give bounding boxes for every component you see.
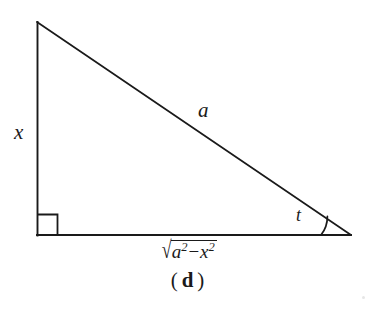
hypotenuse-line xyxy=(37,22,351,235)
figure-caption: (d) xyxy=(0,268,376,293)
radicand-group: a2−x2 xyxy=(171,240,217,261)
label-hypotenuse-a: a xyxy=(198,100,209,121)
angle-arc-marker xyxy=(321,216,327,235)
caption-close-paren: ) xyxy=(197,268,205,292)
radicand-second-exponent: 2 xyxy=(209,240,215,254)
scan-artifact-speck xyxy=(362,296,365,299)
label-vertical-leg-x: x xyxy=(14,122,23,143)
radical-sign-icon: √ xyxy=(162,239,172,262)
radicand-operator: − xyxy=(187,241,200,262)
radicand-second-base: x xyxy=(200,241,208,262)
caption-open-paren: ( xyxy=(171,268,179,292)
right-angle-marker xyxy=(37,215,58,236)
figure-container: x a t √ a2−x2 (d) xyxy=(0,0,376,310)
caption-letter: d xyxy=(179,268,198,292)
label-angle-t: t xyxy=(296,206,301,224)
label-base-radical: √ a2−x2 xyxy=(159,240,217,262)
radicand-first-base: a xyxy=(172,241,182,262)
right-triangle-diagram xyxy=(0,0,376,310)
